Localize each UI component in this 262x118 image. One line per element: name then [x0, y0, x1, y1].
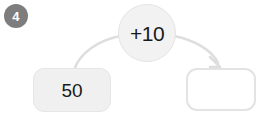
start-value-box: 50 — [33, 68, 111, 112]
answer-value-box[interactable] — [186, 68, 256, 111]
arrow-from-start-to-operator — [74, 36, 120, 70]
start-value-label: 50 — [61, 81, 82, 100]
operator-label: +10 — [130, 23, 164, 44]
operator-bubble: +10 — [118, 4, 176, 62]
exercise-canvas: 4 +10 50 — [0, 0, 262, 118]
